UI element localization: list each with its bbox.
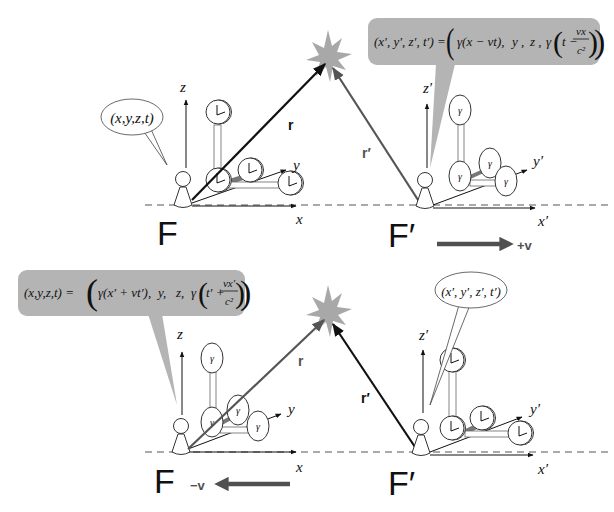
bottom-x-label: x [295,459,303,475]
bottom-observer-fprime-icon [412,420,430,456]
top-velocity-label: +v [517,238,533,253]
top-formula-gamma: γ [546,34,552,49]
svg-text:): ) [594,23,605,61]
bottom-observer-f-icon [172,419,190,455]
top-vector-r-prime [333,68,420,203]
clock-icon [238,158,264,182]
bottom-formula-numerator: vx′ [223,277,236,289]
bottom-velocity-label: −v [190,478,206,493]
bottom-frame-fprime-label: F′ [388,464,415,502]
top-observer-fprime-icon [416,173,434,209]
clock-icon [206,100,232,124]
svg-text:(: ( [446,21,454,62]
bottom-z-label: z [176,326,183,342]
top-formula-z-term: z , [529,34,542,49]
bottom-vector-r-label: r [298,353,304,369]
clock-icon [508,421,534,445]
top-observer-f-icon [174,172,192,208]
top-panel: r r′ z y x F (x,y,z,t) γ γ γ [101,18,612,254]
top-vector-r-label: r [288,117,294,133]
bottom-formula-y-term: y, [156,285,166,300]
clock-icon [278,171,304,195]
top-bubble-text: (x,y,z,t) [110,110,154,127]
lorentz-transformation-diagram: r r′ z y x F (x,y,z,t) γ γ γ [0,0,614,512]
bottom-y-label: y [286,401,295,417]
top-formula-gamma-term: γ(x − vt), [457,34,504,49]
top-f-clock-lattice [206,100,304,195]
bottom-vector-r-prime-label: r′ [361,390,370,406]
top-formula-denominator: c² [577,44,586,56]
bottom-yprime-label: y′ [528,401,541,417]
bottom-zprime-label: z′ [418,327,429,343]
top-xprime-label: x′ [537,213,549,229]
top-x-label: x [295,211,303,227]
bottom-formula-denominator: c² [225,295,234,307]
top-explosion-icon [306,30,352,82]
top-formula-y-term: y , [510,34,524,49]
top-formula-lhs: (x′, y′, z′, t′) = [374,34,446,49]
bottom-observer-speech-bubble: (x′, y′, z′, t′) [430,272,507,405]
bottom-formula-gamma-term: γ(x′ + vt′), [98,285,151,300]
svg-text:): ) [240,274,251,312]
top-fprime-clock-lattice: γ γ γ γ [449,95,517,196]
top-z-label: z [179,79,186,95]
bottom-formula-time: t′ + [206,285,224,300]
bottom-vector-r-prime [333,324,417,450]
clock-icon [440,416,466,440]
bottom-bubble-text: (x′, y′, z′, t′) [441,284,501,299]
top-formula-callout: (x′, y′, z′, t′) = ( γ(x − vt), y , z , … [368,18,605,168]
clock-icon [470,406,496,430]
top-observer-speech-bubble: (x,y,z,t) [101,99,167,165]
bottom-formula-lhs: (x,y,z,t) = [24,285,74,300]
top-frame-fprime-label: F′ [388,216,415,254]
top-yprime-label: y′ [531,153,544,169]
bottom-formula-gamma: γ [191,285,197,300]
bottom-frame-f-label: F [154,462,175,500]
svg-text:(: ( [86,272,98,312]
top-formula-numerator: vx [576,25,586,37]
top-zprime-label: z′ [422,80,433,96]
bottom-xprime-label: x′ [537,461,549,477]
top-frame-f-label: F [157,214,178,252]
bottom-panel: γ γ γ γ r r′ z y x F −v [18,270,612,502]
bottom-formula-z-term: z, [175,285,184,300]
top-y-label: y [291,157,300,173]
top-vector-r-prime-label: r′ [362,145,371,161]
